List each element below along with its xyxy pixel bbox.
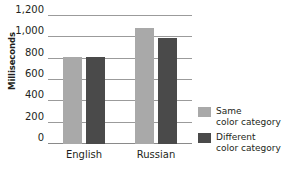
legend-label-line1: Different xyxy=(216,132,281,143)
bar xyxy=(158,38,177,144)
legend-label-line2: color category xyxy=(216,117,281,128)
x-axis-category-label: Russian xyxy=(120,149,192,160)
y-axis-tick-label: 0 xyxy=(38,132,44,143)
chart-legend: Samecolor categoryDifferentcolor categor… xyxy=(198,106,284,158)
legend-label-line1: Same xyxy=(216,106,281,117)
bar xyxy=(135,28,154,144)
legend-label: Differentcolor category xyxy=(216,132,281,153)
bar xyxy=(86,57,105,144)
legend-label-line2: color category xyxy=(216,143,281,154)
legend-label: Samecolor category xyxy=(216,106,281,127)
y-axis-tick-label: 400 xyxy=(25,89,44,100)
x-axis-category-label: English xyxy=(48,149,120,160)
y-axis-tick-label: 600 xyxy=(25,68,44,79)
legend-swatch xyxy=(198,133,211,143)
legend-swatch xyxy=(198,107,211,117)
bars-layer xyxy=(48,16,192,144)
y-axis-tick-label: 1,200 xyxy=(15,4,44,15)
bar-chart: Milliseconds 1,2001,0008006004002000 Eng… xyxy=(0,0,286,170)
bar xyxy=(63,57,82,144)
plot-area: 1,2001,0008006004002000 xyxy=(48,16,192,144)
legend-item: Differentcolor category xyxy=(198,132,284,153)
y-axis-tick-label: 200 xyxy=(25,111,44,122)
y-axis-tick-label: 800 xyxy=(25,47,44,58)
y-axis-tick-label: 1,000 xyxy=(15,25,44,36)
legend-item: Samecolor category xyxy=(198,106,284,127)
